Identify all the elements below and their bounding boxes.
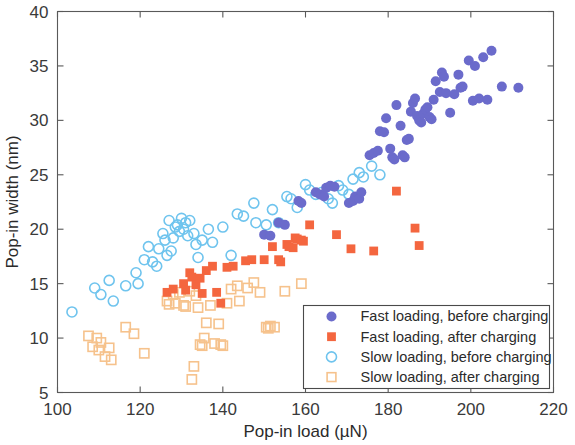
data-point	[229, 262, 238, 271]
data-point	[121, 281, 131, 291]
data-point	[239, 211, 249, 221]
legend-group: Fast loading, before chargingFast loadin…	[304, 306, 552, 389]
data-point	[487, 46, 497, 56]
data-point	[373, 146, 383, 156]
data-point	[208, 262, 217, 271]
data-point	[249, 278, 258, 287]
data-point	[400, 152, 410, 162]
data-point	[381, 113, 391, 123]
data-point	[369, 247, 378, 256]
data-point	[107, 355, 116, 364]
data-point	[276, 257, 285, 266]
data-point	[416, 118, 426, 128]
data-point	[206, 301, 215, 310]
data-point	[143, 242, 153, 252]
data-point	[445, 108, 455, 118]
data-point	[90, 283, 100, 293]
data-point	[458, 82, 468, 92]
data-point	[410, 94, 420, 104]
data-point	[218, 222, 228, 232]
data-point	[100, 352, 109, 361]
data-point	[96, 290, 106, 300]
data-point	[415, 241, 424, 250]
data-point	[189, 362, 198, 371]
data-point	[249, 198, 259, 208]
data-point	[367, 161, 377, 171]
data-point	[289, 243, 298, 252]
y-tick-label: 5	[39, 384, 48, 403]
legend-item-label: Fast loading, before charging	[361, 308, 549, 324]
data-point	[299, 237, 308, 246]
data-point	[104, 275, 114, 285]
data-point	[181, 286, 190, 295]
data-point	[379, 127, 389, 137]
data-point	[261, 220, 271, 230]
data-point	[214, 319, 223, 328]
data-point	[319, 192, 329, 202]
legend-item-label: Slow loading, before charging	[361, 349, 552, 365]
x-tick-label: 140	[209, 400, 237, 419]
series-3	[84, 278, 306, 384]
legend-marker-icon	[327, 312, 337, 322]
data-point	[232, 209, 242, 219]
y-tick-label: 35	[30, 57, 49, 76]
data-point	[453, 70, 463, 80]
data-point	[347, 244, 356, 253]
data-point	[404, 134, 414, 144]
y-axis-title: Pop-in width (nm)	[3, 135, 22, 268]
data-point	[392, 187, 401, 196]
data-point	[305, 220, 314, 229]
y-tick-label: 15	[30, 275, 49, 294]
data-point	[193, 253, 203, 263]
data-point	[216, 299, 225, 308]
data-point	[208, 237, 218, 247]
legend-marker-icon	[327, 332, 336, 341]
data-point	[348, 174, 358, 184]
y-tick-label: 40	[30, 3, 49, 22]
data-point	[267, 205, 277, 215]
y-tick-label: 30	[30, 111, 49, 130]
data-point	[375, 170, 385, 180]
x-tick-label: 180	[374, 400, 402, 419]
data-point	[247, 255, 256, 264]
data-point	[280, 220, 290, 230]
x-tick-label: 200	[457, 400, 485, 419]
data-point	[411, 224, 420, 233]
data-point	[329, 182, 339, 192]
data-point	[158, 229, 168, 239]
data-point	[265, 231, 275, 241]
data-point	[198, 289, 207, 298]
data-point	[187, 273, 196, 282]
data-point	[439, 72, 449, 82]
data-point	[356, 187, 366, 197]
y-tick-label: 25	[30, 166, 49, 185]
data-point	[385, 144, 395, 154]
data-point	[255, 288, 264, 297]
data-point	[212, 288, 221, 297]
data-point	[251, 218, 261, 228]
data-point	[280, 287, 289, 296]
y-tick-label: 20	[30, 220, 49, 239]
x-axis-title: Pop-in load (µN)	[243, 422, 367, 441]
data-point	[131, 268, 141, 278]
data-point	[193, 303, 202, 312]
data-point	[260, 255, 269, 264]
data-point	[233, 281, 242, 290]
data-point	[187, 375, 196, 384]
data-point	[482, 95, 492, 105]
data-point	[396, 121, 406, 131]
data-point	[478, 52, 488, 62]
data-point	[140, 349, 149, 358]
data-point	[202, 318, 211, 327]
data-point	[203, 224, 213, 234]
x-tick-label: 160	[291, 400, 319, 419]
data-point	[391, 100, 401, 110]
legend-item[interactable]: Fast loading, before charging	[327, 308, 549, 324]
x-tick-label: 120	[126, 400, 154, 419]
data-point	[427, 114, 437, 124]
data-point	[67, 307, 77, 317]
legend-item[interactable]: Slow loading, before charging	[327, 349, 552, 365]
data-point	[227, 284, 236, 293]
data-point	[133, 279, 143, 289]
legend-item-label: Slow loading, after charging	[361, 369, 540, 385]
